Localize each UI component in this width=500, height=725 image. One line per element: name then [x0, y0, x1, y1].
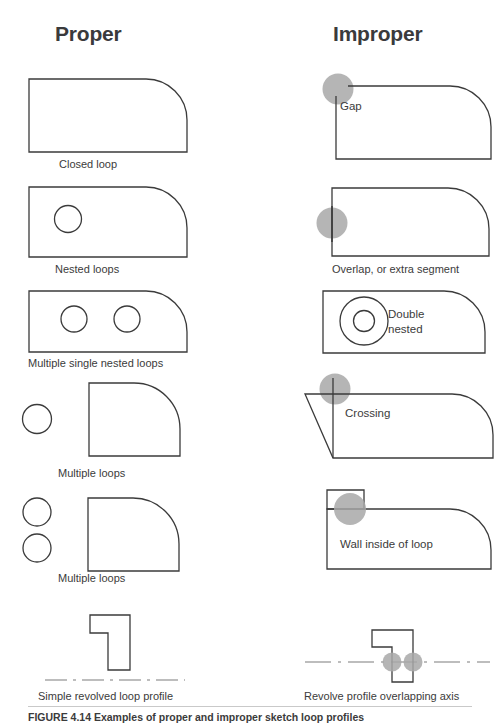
defect-highlight-marker-left — [383, 653, 402, 672]
caption-multiple-loops-two-circles: Multiple loops — [58, 572, 125, 584]
figure-root: Proper Improper Closed loop Nested loops… — [0, 0, 500, 725]
label-crossing: Crossing — [345, 407, 390, 420]
nested-loops-shape — [28, 186, 188, 258]
label-gap: Gap — [340, 100, 362, 113]
multiple-loops-two-circles-shape — [22, 492, 182, 572]
diagram-multiple-loops-two-circles — [22, 492, 182, 572]
gap-shape — [322, 72, 492, 160]
inner-circle-right — [114, 306, 140, 332]
wall-inside-of-loop-shape — [322, 486, 494, 571]
caption-closed-loop: Closed loop — [59, 158, 117, 170]
label-wall-inside-of-loop: Wall inside of loop — [340, 538, 433, 551]
defect-highlight-marker-right — [404, 653, 423, 672]
multiple-single-nested-loops-shape — [28, 290, 188, 353]
diagram-overlap-extra-segment — [318, 186, 493, 258]
diagram-multiple-single-nested-loops — [28, 290, 188, 353]
diagram-simple-revolved-loop-profile — [40, 610, 200, 685]
outer-circle — [340, 297, 388, 345]
caption-nested-loops: Nested loops — [55, 263, 119, 275]
separate-circle-bottom — [23, 534, 51, 562]
figure-caption: FIGURE 4.14 Examples of proper and impro… — [28, 711, 364, 725]
caption-simple-revolved-loop-profile: Simple revolved loop profile — [38, 690, 173, 702]
revolve-profile-overlapping-axis-shape — [300, 620, 495, 690]
l-profile — [90, 615, 130, 670]
separate-circle — [23, 405, 52, 434]
simple-revolved-loop-profile-shape — [40, 610, 200, 685]
diagram-gap — [322, 72, 492, 160]
inner-circle — [354, 311, 375, 332]
multiple-loops-one-circle-shape — [22, 382, 182, 457]
separate-circle-top — [23, 498, 51, 526]
diagram-closed-loop — [28, 78, 188, 153]
inner-circle — [55, 206, 82, 233]
caption-overlap-extra-segment: Overlap, or extra segment — [332, 263, 459, 275]
diagram-nested-loops — [28, 186, 188, 258]
label-double-nested-line2: nested — [388, 323, 423, 336]
figure-divider-rule — [28, 706, 472, 707]
caption-multiple-loops-one-circle: Multiple loops — [58, 467, 125, 479]
diagram-crossing — [300, 375, 495, 460]
closed-loop-shape — [28, 78, 188, 153]
defect-highlight-marker — [334, 493, 366, 525]
label-double-nested-line1: Double — [388, 308, 424, 321]
diagram-multiple-loops-one-circle — [22, 382, 182, 457]
caption-revolve-profile-overlapping-axis: Revolve profile overlapping axis — [304, 690, 459, 702]
crossing-shape — [300, 375, 495, 460]
column-heading-proper: Proper — [55, 22, 122, 46]
diagram-wall-inside-of-loop — [322, 486, 494, 571]
column-heading-improper: Improper — [333, 22, 422, 46]
diagram-revolve-profile-overlapping-axis — [300, 620, 495, 690]
caption-multiple-single-nested-loops: Multiple single nested loops — [28, 357, 163, 369]
defect-highlight-marker — [320, 374, 351, 405]
inner-circle-left — [61, 306, 87, 332]
overlap-extra-segment-shape — [318, 186, 493, 258]
